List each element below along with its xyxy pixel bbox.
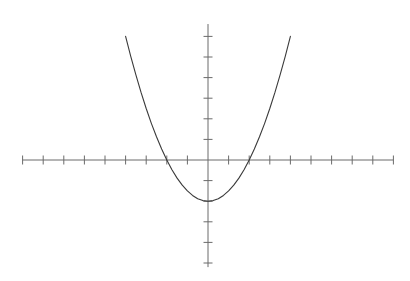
axes-group — [23, 24, 394, 267]
graph-canvas — [0, 0, 410, 281]
parabola-plot — [0, 0, 410, 281]
